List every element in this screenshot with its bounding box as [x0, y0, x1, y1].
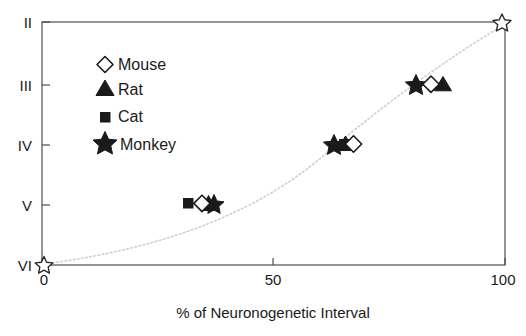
legend-entry-mouse[interactable]: Mouse: [97, 56, 166, 73]
x-tick-label-50: 50: [265, 271, 282, 288]
y-tick-label-VI: VI: [18, 257, 32, 274]
legend-entry-rat[interactable]: Rat: [96, 80, 143, 98]
filled-square-icon: [101, 113, 111, 123]
y-tick-label-III: III: [19, 77, 32, 94]
scatter-plot: II III IV V VI 0 50 100 % of Neuronogene…: [0, 0, 526, 336]
legend-label-monkey: Monkey: [120, 136, 176, 153]
y-tick-label-II: II: [24, 14, 32, 31]
marker-cat-V: [184, 199, 194, 209]
legend-label-cat: Cat: [118, 108, 143, 125]
chart-figure: II III IV V VI 0 50 100 % of Neuronogene…: [0, 0, 526, 336]
x-axis-title: % of Neuronogenetic Interval: [176, 304, 369, 321]
y-tick-label-V: V: [22, 197, 32, 214]
y-tick-label-IV: IV: [18, 137, 32, 154]
x-tick-label-0: 0: [40, 271, 48, 288]
x-tick-label-100: 100: [490, 271, 515, 288]
legend-label-mouse: Mouse: [118, 56, 166, 73]
legend-label-rat: Rat: [118, 81, 143, 98]
